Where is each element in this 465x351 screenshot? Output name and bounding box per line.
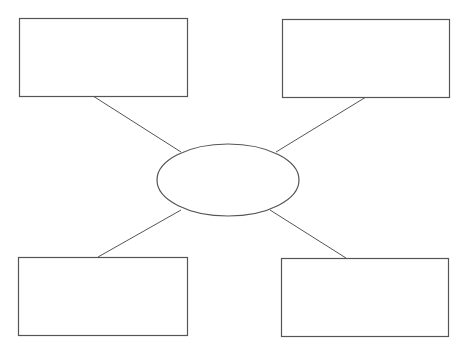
box-bottom-left[interactable]: [19, 258, 188, 336]
box-bottom-right[interactable]: [282, 259, 449, 337]
spider-map-diagram: [0, 0, 465, 351]
connector-bottom-left: [98, 210, 181, 257]
box-bottom-right-shape[interactable]: [282, 259, 449, 337]
box-top-right-shape[interactable]: [283, 20, 450, 98]
connector-top-left: [93, 96, 181, 152]
box-bottom-left-shape[interactable]: [19, 258, 188, 336]
box-top-left[interactable]: [20, 19, 188, 97]
connector-bottom-right: [270, 210, 346, 258]
center-ellipse[interactable]: [157, 144, 299, 216]
box-top-left-shape[interactable]: [20, 19, 188, 97]
connector-top-right: [276, 97, 366, 152]
center-node: [157, 144, 299, 216]
box-top-right[interactable]: [283, 20, 450, 98]
